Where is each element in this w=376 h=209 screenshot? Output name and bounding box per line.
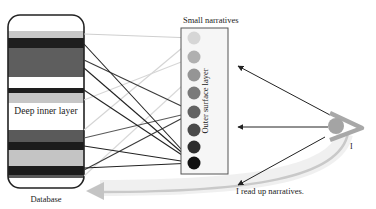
database-stripe bbox=[8, 31, 84, 38]
database-stripe bbox=[8, 48, 84, 77]
database-stripe bbox=[8, 93, 84, 103]
database-stripe bbox=[8, 166, 84, 175]
connection-line bbox=[84, 44, 194, 163]
database-stripe bbox=[8, 77, 84, 88]
outer-surface-layer-label: Outer surface layer bbox=[200, 68, 210, 133]
narrative-circle bbox=[188, 32, 201, 45]
database-stripe bbox=[8, 88, 84, 93]
small-narratives-label: Small narratives bbox=[183, 15, 238, 25]
narrative-circle bbox=[188, 106, 201, 119]
narrative-circle bbox=[188, 51, 201, 64]
narrative-circle bbox=[188, 157, 201, 170]
connection-line bbox=[84, 163, 194, 168]
connection-lines bbox=[84, 34, 194, 176]
narrative-circle bbox=[188, 69, 201, 82]
database-stripe bbox=[8, 175, 84, 178]
observer-label: I bbox=[350, 142, 353, 152]
database-stripe bbox=[8, 150, 84, 166]
database-label: Database bbox=[0, 194, 92, 204]
narrative-circle bbox=[188, 124, 201, 137]
gaze-arrow bbox=[238, 66, 330, 115]
database-stripe bbox=[8, 130, 84, 142]
database-stripe bbox=[8, 142, 84, 150]
deep-inner-layer-label: Deep inner layer bbox=[10, 106, 82, 117]
caption-label: I read up narratives. bbox=[236, 186, 304, 196]
diagram-canvas bbox=[0, 0, 376, 209]
connection-line bbox=[84, 57, 194, 100]
eye-icon bbox=[328, 113, 362, 140]
narrative-circle bbox=[188, 87, 201, 100]
database-stripe bbox=[8, 38, 84, 48]
narrative-circle bbox=[188, 141, 201, 154]
connection-line bbox=[84, 90, 194, 163]
connection-line bbox=[84, 112, 194, 170]
connection-line bbox=[84, 34, 194, 38]
database bbox=[8, 15, 84, 188]
